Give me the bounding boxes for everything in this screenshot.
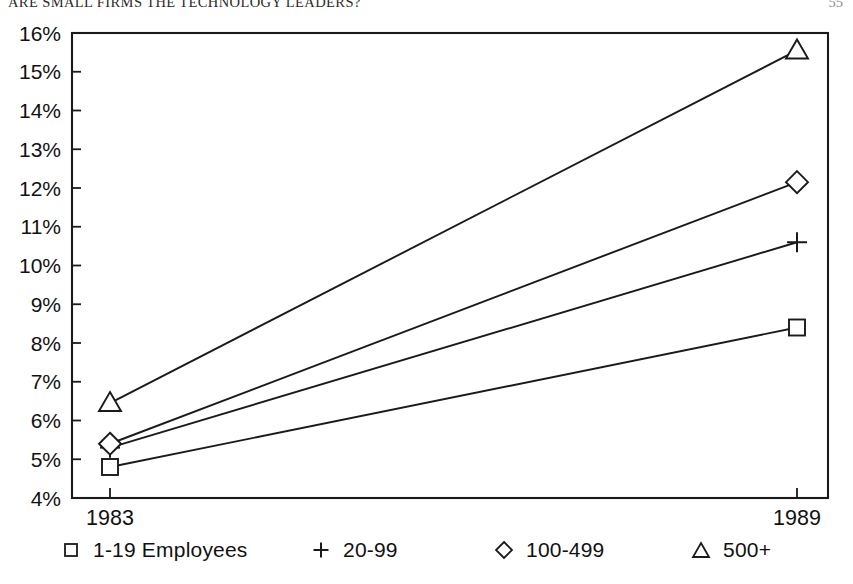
y-axis-tick-label: 11% bbox=[21, 215, 61, 238]
square-marker-icon bbox=[60, 539, 82, 561]
data-point-marker bbox=[789, 320, 805, 336]
chart-legend: 1-19 Employees 20-99 100-499 500+ bbox=[0, 534, 853, 572]
legend-item-500-plus[interactable]: 500+ bbox=[690, 538, 771, 562]
legend-label: 500+ bbox=[723, 538, 771, 562]
triangle-marker-icon bbox=[690, 539, 712, 561]
y-axis-tick-label: 7% bbox=[31, 370, 61, 393]
plus-marker-icon bbox=[310, 539, 332, 561]
y-axis-tick-label: 4% bbox=[31, 487, 61, 510]
legend-item-1-19-employees[interactable]: 1-19 Employees bbox=[60, 538, 248, 562]
series-line bbox=[110, 50, 797, 403]
y-axis-tick-label: 9% bbox=[31, 293, 61, 316]
legend-label: 20-99 bbox=[343, 538, 398, 562]
data-point-marker bbox=[786, 39, 808, 58]
legend-label: 100-499 bbox=[526, 538, 604, 562]
y-axis-tick-label: 14% bbox=[19, 99, 61, 122]
line-chart-figure: 16%15%14%13%12%11%10%9%8%7%6%5%4%1983198… bbox=[0, 0, 853, 584]
y-axis-tick-label: 12% bbox=[19, 177, 61, 200]
chart-canvas: 16%15%14%13%12%11%10%9%8%7%6%5%4%1983198… bbox=[0, 0, 853, 584]
plot-frame bbox=[72, 33, 828, 498]
data-point-marker bbox=[99, 433, 121, 455]
data-point-marker bbox=[99, 392, 121, 411]
y-axis-tick-label: 15% bbox=[19, 60, 61, 83]
y-axis-tick-label: 6% bbox=[31, 409, 61, 432]
series-line bbox=[110, 182, 797, 444]
x-axis-tick-label: 1989 bbox=[773, 506, 821, 530]
data-point-marker bbox=[787, 232, 807, 252]
series-line bbox=[110, 242, 797, 447]
x-axis-tick-label: 1983 bbox=[86, 506, 134, 530]
legend-item-20-99[interactable]: 20-99 bbox=[310, 538, 398, 562]
y-axis-tick-label: 5% bbox=[31, 448, 61, 471]
legend-label: 1-19 Employees bbox=[93, 538, 248, 562]
diamond-marker-icon bbox=[493, 539, 515, 561]
y-axis-tick-label: 10% bbox=[19, 254, 61, 277]
y-axis-tick-label: 8% bbox=[31, 332, 61, 355]
legend-item-100-499[interactable]: 100-499 bbox=[493, 538, 604, 562]
y-axis-tick-label: 13% bbox=[19, 138, 61, 161]
series-line bbox=[110, 328, 797, 468]
data-point-marker bbox=[102, 459, 118, 475]
data-point-marker bbox=[786, 171, 808, 193]
y-axis-tick-label: 16% bbox=[19, 22, 61, 45]
